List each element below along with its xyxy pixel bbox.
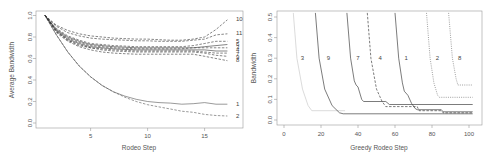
x-tick-label: 80 [429, 131, 436, 137]
x-tick-label: 40 [355, 131, 362, 137]
series-line-4 [367, 13, 472, 113]
x-tick-label: 20 [318, 131, 325, 137]
x-tick-label: 100 [464, 131, 475, 137]
x-tick-label: 0 [282, 131, 286, 137]
curve-label: 9 [327, 55, 331, 61]
series-lines [293, 13, 472, 114]
y-tick-label: 0.3 [267, 53, 273, 62]
x-tick-label: 60 [392, 131, 399, 137]
curve-label: 1 [404, 55, 408, 61]
series-line-3 [293, 13, 345, 111]
curve-label: 4 [379, 55, 383, 61]
series-line-2 [427, 13, 473, 97]
y-axis-label: Bandwidth [250, 52, 257, 83]
series-line-9 [315, 13, 472, 114]
y-tick-label: 0.4 [267, 33, 273, 42]
x-axis-label: Greedy Rodeo Step [350, 144, 408, 152]
curve-label: 8 [458, 55, 462, 61]
curve-label: 2 [436, 55, 440, 61]
inline-labels: 3974128 [301, 55, 462, 61]
curve-label: 7 [356, 55, 360, 61]
plot-frame [277, 11, 482, 125]
y-tick-label: 0.2 [267, 74, 273, 83]
y-tick-label: 0.1 [267, 95, 273, 104]
series-line-7 [347, 13, 473, 105]
y-axis: 0.00.10.20.30.40.5 [267, 12, 277, 124]
x-axis: 020406080100 [282, 125, 474, 137]
figure: 0.00.20.40.60.81.0 51015 1011563479812 R… [0, 0, 491, 158]
y-tick-label: 0.5 [267, 12, 273, 21]
y-tick-label: 0.0 [267, 115, 273, 124]
curve-label: 3 [301, 55, 305, 61]
series-line-8 [449, 13, 473, 85]
greedy-bandwidth-chart: 0.00.10.20.30.40.5 020406080100 3974128 … [0, 0, 491, 158]
series-line-1 [395, 13, 473, 112]
